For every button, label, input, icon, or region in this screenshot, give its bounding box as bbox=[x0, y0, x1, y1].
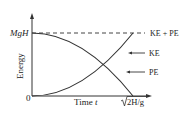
y-axis-arrow-icon bbox=[30, 13, 34, 19]
energy-time-chart: MgH 0 Energy Time t 2H/g KE + PE KE PE bbox=[0, 0, 186, 119]
ytick-mgh: MgH bbox=[9, 28, 29, 38]
ke-arrow-icon bbox=[128, 52, 132, 55]
legend-ke-label: KE bbox=[149, 49, 160, 58]
ke-curve bbox=[32, 33, 133, 96]
legend-total-label: KE + PE bbox=[150, 29, 179, 38]
legend-pe-label: PE bbox=[149, 68, 158, 77]
pe-curve bbox=[32, 33, 133, 96]
origin-label: 0 bbox=[26, 93, 31, 103]
x-axis-label: Time t bbox=[74, 97, 98, 107]
pe-arrow-icon bbox=[126, 71, 130, 74]
x-axis-arrow-icon bbox=[146, 94, 152, 98]
xtick-sqrt-2h-over-g: 2H/g bbox=[121, 97, 148, 108]
y-axis-label: Energy bbox=[15, 53, 25, 79]
svg-text:2H/g: 2H/g bbox=[127, 97, 145, 107]
